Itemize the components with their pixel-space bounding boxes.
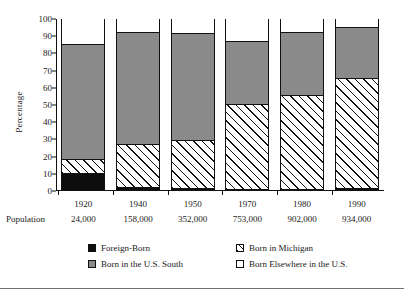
legend-item-born-in-michigan: Born in Michigan xyxy=(236,243,378,253)
population-value-1940: 158,000 xyxy=(123,215,152,224)
y-tick-mark xyxy=(52,156,56,157)
bar-segment-1920-born-elsewhere-in-the-u-s xyxy=(62,18,104,44)
bar-segment-1940-born-in-michigan xyxy=(117,144,159,188)
bar-segment-1940-born-in-the-u-s-south xyxy=(117,32,159,144)
legend-label: Born Elsewhere in the U.S. xyxy=(249,259,347,269)
bar-1950 xyxy=(171,19,215,191)
y-tick-label: 10 xyxy=(22,169,52,178)
bar-segment-1950-born-in-the-u-s-south xyxy=(172,33,214,141)
y-tick-mark xyxy=(52,105,56,106)
y-tick-label: 90 xyxy=(22,32,52,41)
bar-segment-1990-born-elsewhere-in-the-u-s xyxy=(336,18,378,27)
bar-segment-1940-born-elsewhere-in-the-u-s xyxy=(117,18,159,32)
bar-segment-1970-foreign-born xyxy=(226,189,268,190)
y-tick-mark xyxy=(52,173,56,174)
bar-1920 xyxy=(61,19,105,191)
x-tick-label-1950: 1950 xyxy=(184,200,202,209)
bar-segment-1920-foreign-born xyxy=(62,173,104,190)
bar-segment-1990-born-in-michigan xyxy=(336,78,378,188)
population-row-label: Population xyxy=(6,215,45,224)
bar-segment-1980-foreign-born xyxy=(281,189,323,190)
x-tick-mark xyxy=(168,191,169,195)
legend-swatch-born-elsewhere-in-the-u-s xyxy=(236,260,244,268)
population-value-1920: 24,000 xyxy=(71,215,96,224)
y-tick-label: 100 xyxy=(22,15,52,24)
plot-area: 0102030405060708090100 xyxy=(56,19,384,191)
population-value-1990: 934,000 xyxy=(342,215,371,224)
y-tick-label: 40 xyxy=(22,118,52,127)
y-tick-mark xyxy=(52,122,56,123)
y-tick-label: 60 xyxy=(22,83,52,92)
footer-divider xyxy=(0,288,404,289)
legend-label: Born in Michigan xyxy=(249,243,313,253)
bar-segment-1950-born-in-michigan xyxy=(172,140,214,188)
chart-figure: Percentage 0102030405060708090100 Popula… xyxy=(0,0,404,303)
bar-1980 xyxy=(280,19,324,191)
y-tick-mark xyxy=(52,139,56,140)
bar-1990 xyxy=(335,19,379,191)
y-tick-mark xyxy=(52,36,56,37)
y-tick-mark xyxy=(52,70,56,71)
x-tick-label-1970: 1970 xyxy=(238,200,256,209)
bar-segment-1950-born-elsewhere-in-the-u-s xyxy=(172,18,214,33)
x-tick-label-1940: 1940 xyxy=(129,200,147,209)
bar-segment-1970-born-in-michigan xyxy=(226,104,268,189)
bar-segment-1980-born-in-michigan xyxy=(281,95,323,189)
x-tick-label-1990: 1990 xyxy=(348,200,366,209)
bar-segment-1990-born-in-the-u-s-south xyxy=(336,27,378,78)
legend-label: Foreign-Born xyxy=(101,243,150,253)
y-tick-label: 70 xyxy=(22,66,52,75)
legend-label: Born in the U.S. South xyxy=(101,259,183,269)
x-tick-label-1920: 1920 xyxy=(74,200,92,209)
bar-segment-1920-born-in-michigan xyxy=(62,159,104,173)
y-tick-label: 20 xyxy=(22,152,52,161)
bar-segment-1950-foreign-born xyxy=(172,188,214,190)
legend-swatch-foreign-born xyxy=(88,244,96,252)
bar-segment-1920-born-in-the-u-s-south xyxy=(62,44,104,159)
x-tick-mark xyxy=(113,191,114,195)
legend-item-born-in-the-u-s-south: Born in the U.S. South xyxy=(88,259,236,269)
legend-item-born-elsewhere-in-the-u-s: Born Elsewhere in the U.S. xyxy=(236,259,378,269)
bar-segment-1940-foreign-born xyxy=(117,187,159,190)
bar-segment-1980-born-elsewhere-in-the-u-s xyxy=(281,18,323,32)
bar-segment-1980-born-in-the-u-s-south xyxy=(281,32,323,95)
y-tick-label: 50 xyxy=(22,101,52,110)
x-tick-mark xyxy=(277,191,278,195)
y-tick-mark xyxy=(52,191,56,192)
chart-legend: Foreign-BornBorn in MichiganBorn in the … xyxy=(88,243,378,269)
x-tick-label-1980: 1980 xyxy=(293,200,311,209)
bar-1940 xyxy=(116,19,160,191)
legend-item-foreign-born: Foreign-Born xyxy=(88,243,236,253)
population-value-1980: 902,000 xyxy=(287,215,316,224)
x-tick-mark xyxy=(58,191,59,195)
y-tick-label: 80 xyxy=(22,49,52,58)
y-tick-mark xyxy=(52,87,56,88)
x-tick-mark xyxy=(222,191,223,195)
y-tick-label: 30 xyxy=(22,135,52,144)
y-tick-mark xyxy=(52,53,56,54)
bar-segment-1990-foreign-born xyxy=(336,188,378,190)
legend-swatch-born-in-the-u-s-south xyxy=(88,260,96,268)
legend-swatch-born-in-michigan xyxy=(236,244,244,252)
bar-segment-1970-born-elsewhere-in-the-u-s xyxy=(226,18,268,41)
population-value-1970: 753,000 xyxy=(233,215,262,224)
bar-segment-1970-born-in-the-u-s-south xyxy=(226,41,268,104)
x-tick-mark xyxy=(332,191,333,195)
bar-1970 xyxy=(225,19,269,191)
y-tick-mark xyxy=(52,19,56,20)
y-tick-label: 0 xyxy=(22,187,52,196)
population-value-1950: 352,000 xyxy=(178,215,207,224)
